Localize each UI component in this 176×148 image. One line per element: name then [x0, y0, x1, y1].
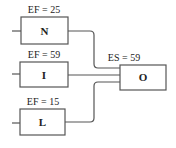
node-n[interactable]: N: [21, 17, 68, 44]
edge-l-to-o: [65, 82, 120, 122]
node-l-label: L: [39, 116, 46, 128]
node-n-annotation: EF = 25: [28, 4, 60, 15]
node-o-label: O: [139, 71, 148, 83]
node-o-annotation: ES = 59: [108, 52, 140, 63]
node-n-label: N: [41, 25, 49, 37]
node-o[interactable]: O: [120, 65, 166, 90]
activity-network-diagram: N EF = 25 I EF = 59 L EF = 15 O ES = 59: [0, 0, 176, 148]
node-i-annotation: EF = 59: [28, 49, 60, 60]
node-i-label: I: [42, 69, 46, 81]
node-l-annotation: EF = 15: [27, 96, 59, 107]
node-l[interactable]: L: [20, 109, 65, 135]
node-i[interactable]: I: [20, 62, 68, 87]
